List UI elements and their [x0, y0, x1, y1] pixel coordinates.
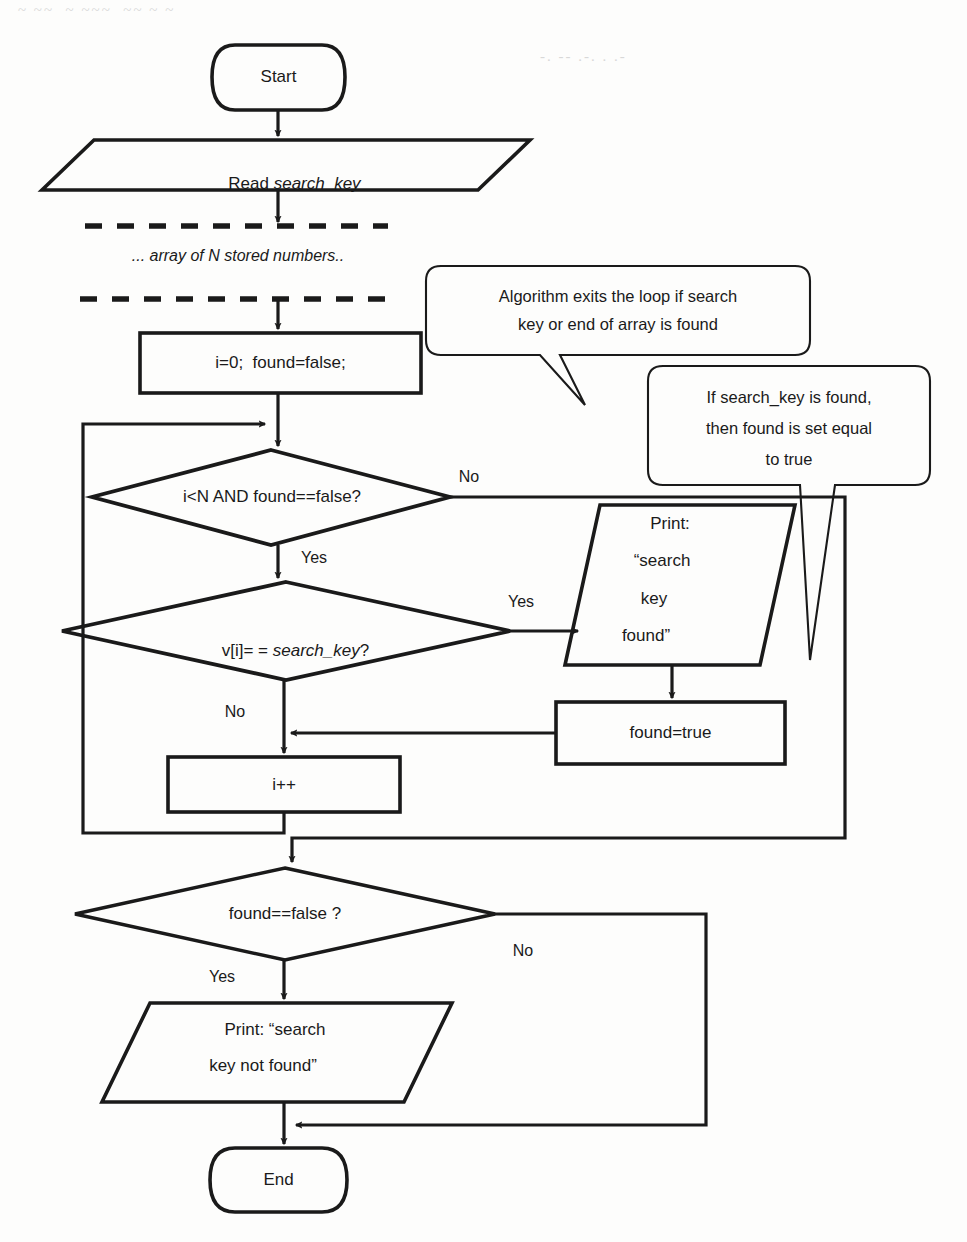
end-terminator-shape — [210, 1148, 347, 1212]
check-found-shape — [75, 868, 495, 960]
flowchart-canvas — [0, 0, 967, 1242]
callout-set-true-shape — [648, 366, 930, 660]
set-found-shape — [556, 702, 785, 764]
start-terminator-shape — [212, 45, 345, 110]
loop-condition-shape — [92, 450, 450, 545]
callout-loop-exit-shape — [426, 266, 810, 405]
compare-shape — [62, 582, 510, 680]
init-box-shape — [140, 333, 421, 393]
print-found-shape — [565, 505, 795, 665]
read-input-shape — [42, 140, 530, 190]
increment-shape — [168, 757, 400, 812]
edge-loop-no — [292, 497, 845, 862]
flowchart-page: ~ ~~ ~ ~~~ ~~ ~ ~ -. -- .-. . .- — [0, 0, 967, 1242]
edge-loop-back — [83, 424, 284, 833]
print-not-found-shape — [102, 1003, 452, 1102]
